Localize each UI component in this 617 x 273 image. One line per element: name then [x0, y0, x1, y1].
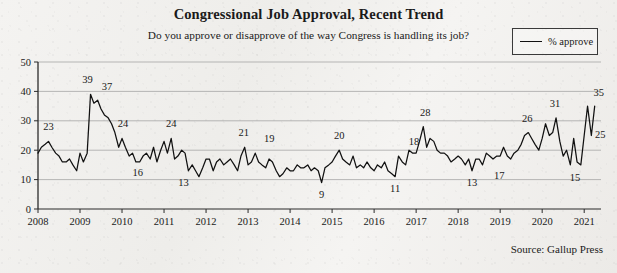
svg-text:26: 26: [522, 113, 533, 124]
svg-text:15: 15: [570, 172, 581, 183]
svg-text:24: 24: [166, 118, 177, 129]
y-axis-tick-labels: 01020304050: [21, 57, 32, 215]
svg-text:40: 40: [21, 86, 32, 97]
svg-text:2019: 2019: [490, 216, 511, 227]
svg-text:2009: 2009: [70, 216, 91, 227]
svg-text:2010: 2010: [112, 216, 133, 227]
svg-text:2011: 2011: [154, 216, 175, 227]
svg-text:28: 28: [420, 107, 431, 118]
svg-text:31: 31: [550, 98, 561, 109]
svg-text:17: 17: [494, 170, 505, 181]
svg-text:11: 11: [390, 183, 400, 194]
svg-text:25: 25: [595, 129, 606, 140]
svg-text:24: 24: [118, 118, 129, 129]
svg-text:2018: 2018: [448, 216, 469, 227]
svg-text:2016: 2016: [364, 216, 385, 227]
svg-text:30: 30: [21, 115, 32, 126]
svg-text:10: 10: [21, 174, 32, 185]
svg-text:20: 20: [21, 145, 32, 156]
svg-text:2017: 2017: [406, 216, 427, 227]
x-axis-ticks: [38, 209, 584, 213]
svg-text:19: 19: [264, 133, 275, 144]
line-chart-plot: 01020304050 2008200920102011201220132014…: [0, 0, 617, 273]
svg-text:16: 16: [132, 167, 143, 178]
x-axis-tick-labels: 2008200920102011201220132014201520162017…: [28, 216, 595, 227]
data-line-approve: [38, 94, 595, 182]
svg-text:2014: 2014: [280, 216, 302, 227]
svg-text:35: 35: [593, 87, 604, 98]
svg-text:2021: 2021: [574, 216, 595, 227]
svg-text:37: 37: [102, 81, 113, 92]
svg-text:13: 13: [467, 177, 478, 188]
svg-text:18: 18: [409, 136, 420, 147]
svg-text:13: 13: [178, 177, 189, 188]
svg-text:2020: 2020: [532, 216, 553, 227]
svg-text:50: 50: [21, 57, 32, 68]
svg-text:20: 20: [334, 130, 345, 141]
svg-text:9: 9: [319, 189, 324, 200]
data-point-annotations: 2339372416241321199201118281326173115352…: [43, 74, 605, 199]
svg-text:2008: 2008: [28, 216, 49, 227]
svg-text:23: 23: [43, 121, 54, 132]
svg-text:2013: 2013: [238, 216, 259, 227]
source-note: Source: Gallup Press: [511, 243, 603, 255]
svg-text:2012: 2012: [196, 216, 217, 227]
svg-text:21: 21: [238, 127, 249, 138]
svg-text:2015: 2015: [322, 216, 343, 227]
svg-text:0: 0: [26, 204, 31, 215]
svg-text:39: 39: [82, 74, 93, 85]
